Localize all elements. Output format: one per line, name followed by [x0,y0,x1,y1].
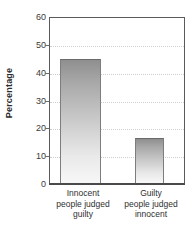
y-axis-title: Percentage [0,0,18,186]
y-tick-label-40: 40 [20,68,46,77]
x-label-line-3: innocent [118,209,184,220]
y-axis-title-label: Percentage [4,68,14,119]
x-label-line-2: people judged [118,199,184,210]
x-label-line-1: Guilty [118,188,184,199]
bar-chart-figure: Percentage 60 50 40 30 20 10 0 Inn [0,0,193,232]
x-label-line-1: Innocent [50,188,116,199]
y-tick-label-60: 60 [20,13,46,22]
bars-group [50,18,184,183]
y-tick-label-0: 0 [20,180,46,189]
x-label-innocent-judged-guilty: Innocent people judged guilty [49,188,117,232]
x-label-guilty-judged-innocent: Guilty people judged innocent [117,188,185,232]
x-label-line-3: guilty [50,209,116,220]
y-tick-label-20: 20 [20,124,46,133]
bar-guilty-judged-innocent [135,138,164,183]
plot-area [49,17,185,184]
x-axis-category-labels: Innocent people judged guilty Guilty peo… [49,188,185,232]
y-axis-tick-labels: 60 50 40 30 20 10 0 [17,0,46,232]
x-axis-baseline [49,183,185,185]
y-tick-label-10: 10 [20,152,46,161]
x-label-line-2: people judged [50,199,116,210]
bar-innocent-judged-guilty [60,59,101,183]
y-tick-label-30: 30 [20,96,46,105]
y-tick-label-50: 50 [20,40,46,49]
